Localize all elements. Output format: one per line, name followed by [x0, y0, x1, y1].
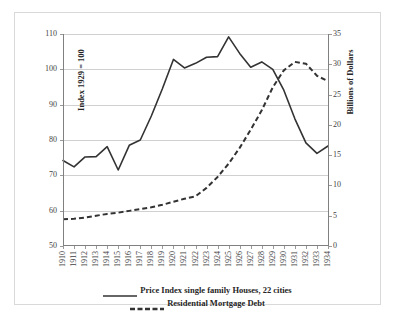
x-axis-tick-mark [273, 246, 274, 249]
x-axis-tick-mark [140, 246, 141, 249]
x-axis-tick-label: 1920 [169, 251, 177, 267]
x-axis-tick-label: 1926 [236, 251, 244, 267]
legend-solid-line-icon [103, 286, 137, 294]
y-axis-right-tick-mark [329, 64, 332, 65]
y-axis-right-tick-mark [329, 246, 332, 247]
x-axis-tick-label: 1933 [313, 251, 321, 267]
x-axis-tick-label: 1916 [125, 251, 133, 267]
x-axis-tick-label: 1928 [258, 251, 266, 267]
plot-area [63, 34, 329, 246]
x-axis-tick-mark [173, 246, 174, 249]
chart-frame: 5060708090100110 05101520253035 19101911… [14, 12, 381, 305]
y-axis-left-tick-label: 60 [27, 207, 57, 215]
x-axis-tick-mark [284, 246, 285, 249]
y-axis-left-tick-mark [60, 105, 63, 106]
y-axis-left-tick-label: 90 [27, 101, 57, 109]
y-axis-right-tick-mark [329, 216, 332, 217]
x-axis-tick-label: 1919 [158, 251, 166, 267]
x-axis-tick-label: 1927 [247, 251, 255, 267]
x-axis-tick-mark [107, 246, 108, 249]
x-axis-tick-mark [129, 246, 130, 249]
y-axis-right-tick-label: 0 [333, 242, 357, 250]
x-axis-tick-label: 1914 [103, 251, 111, 267]
y-axis-left-tick-mark [60, 211, 63, 212]
x-axis-tick-mark [229, 246, 230, 249]
y-axis-right-tick-mark [329, 185, 332, 186]
x-axis-tick-mark [317, 246, 318, 249]
y-axis-left-tick-label: 80 [27, 136, 57, 144]
series-container [63, 34, 329, 246]
x-axis-tick-label: 1918 [147, 251, 155, 267]
y-axis-left-line [63, 34, 64, 246]
y-axis-left-tick-label: 100 [27, 65, 57, 73]
y-axis-right-tick-label: 10 [333, 181, 357, 189]
legend-item-label: Price Index single family Houses, 22 cit… [140, 285, 291, 295]
y-axis-right-title: Billions of Dollars [345, 12, 355, 152]
x-axis-tick-label: 1930 [280, 251, 288, 267]
x-axis-tick-mark [118, 246, 119, 249]
x-axis-tick-mark [196, 246, 197, 249]
x-axis-tick-mark [85, 246, 86, 249]
x-axis-tick-label: 1910 [59, 251, 67, 267]
x-axis-tick-label: 1932 [302, 251, 310, 267]
y-axis-left-tick-label: 70 [27, 171, 57, 179]
x-axis-tick-label: 1923 [203, 251, 211, 267]
y-axis-right-tick-mark [329, 95, 332, 96]
x-axis-tick-mark [306, 246, 307, 249]
chart-legend: Price Index single family Houses, 22 cit… [15, 285, 380, 308]
x-axis-tick-mark [251, 246, 252, 249]
y-axis-right-tick-label: 5 [333, 212, 357, 220]
y-axis-left-tick-label: 110 [27, 30, 57, 38]
y-axis-right-tick-label: 15 [333, 151, 357, 159]
x-axis-tick-label: 1922 [192, 251, 200, 267]
series-price-index [63, 37, 328, 170]
x-axis-tick-mark [240, 246, 241, 249]
x-axis-tick-mark [151, 246, 152, 249]
x-axis-tick-label: 1924 [214, 251, 222, 267]
x-axis-tick-mark [162, 246, 163, 249]
y-axis-left-tick-mark [60, 69, 63, 70]
y-axis-left-tick-mark [60, 175, 63, 176]
x-axis-tick-label: 1915 [114, 251, 122, 267]
y-axis-left-tick-mark [60, 140, 63, 141]
x-axis-tick-label: 1934 [324, 251, 332, 267]
x-axis-tick-mark [207, 246, 208, 249]
legend-item[interactable]: Price Index single family Houses, 22 cit… [103, 285, 291, 295]
x-axis-tick-label: 1921 [180, 251, 188, 267]
y-axis-left-tick-mark [60, 34, 63, 35]
legend-dashed-line-icon [130, 299, 164, 307]
x-axis-tick-label: 1917 [136, 251, 144, 267]
x-axis-tick-label: 1912 [81, 251, 89, 267]
y-axis-right-line [328, 34, 329, 246]
x-axis-tick-mark [218, 246, 219, 249]
x-axis-tick-mark [328, 246, 329, 249]
x-axis-tick-label: 1929 [269, 251, 277, 267]
legend-item[interactable]: Residential Mortgage Debt [130, 298, 265, 308]
y-axis-right-tick-mark [329, 155, 332, 156]
x-axis-tick-label: 1911 [70, 251, 78, 267]
series-mortgage-debt [63, 62, 328, 219]
x-axis-tick-mark [262, 246, 263, 249]
x-axis-tick-label: 1931 [291, 251, 299, 267]
x-axis-tick-mark [184, 246, 185, 249]
x-axis-tick-mark [63, 246, 64, 249]
x-axis-tick-mark [295, 246, 296, 249]
x-axis-tick-mark [74, 246, 75, 249]
x-axis-tick-mark [96, 246, 97, 249]
y-axis-right-tick-mark [329, 125, 332, 126]
legend-item-label: Residential Mortgage Debt [167, 298, 265, 308]
x-axis-tick-label: 1913 [92, 251, 100, 267]
x-axis-tick-label: 1925 [225, 251, 233, 267]
y-axis-left-title: Index 1929 = 100 [76, 10, 86, 150]
y-axis-right-tick-mark [329, 34, 332, 35]
y-axis-left-tick-label: 50 [27, 242, 57, 250]
